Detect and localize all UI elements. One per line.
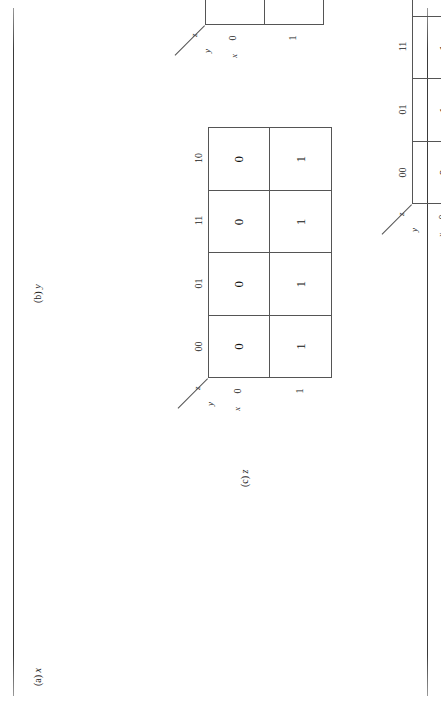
kmap-column-header: 00 [190, 0, 201, 25]
kmap-cell: 0 [265, 0, 324, 24]
kmap-column-header: 11 [397, 15, 408, 78]
kmap-caption-c: (c) z [239, 469, 250, 487]
kmap-axis-diagonal [382, 204, 412, 234]
kmap-caption-c-prefix: (c) [239, 476, 250, 487]
kmap-axis-label-y: y [409, 228, 419, 232]
kmap-axis-label-z: z [192, 386, 202, 390]
kmap-axis-label-y: y [202, 49, 212, 53]
kmap-column-header: 00 [193, 315, 204, 378]
kmap-grid-c: 0 1 1 0 0 1 1 0 [412, 0, 441, 204]
kmap-column-header: 01 [193, 252, 204, 315]
kmap-cell: 0 [413, 0, 441, 16]
kmap-column-header: 10 [193, 127, 204, 189]
kmap-cell: 0 [209, 253, 270, 315]
kmap-cell: 1 [270, 315, 331, 377]
kmap-axis-label-z: z [189, 33, 199, 37]
kmap-cell: 0 [209, 190, 270, 252]
kmap-caption-a-var: x [32, 668, 43, 672]
kmap-caption-b: (b) y [32, 284, 43, 303]
kmap-cell: 1 [270, 190, 331, 252]
page-rule-left [13, 8, 14, 696]
kmap-grid-b: 0 0 1 1 0 0 1 1 [205, 0, 324, 25]
kmap-row-header: 0 [232, 382, 243, 400]
kmap-column-header: 01 [397, 78, 408, 141]
kmap-axis-diagonal [178, 378, 208, 408]
kmap-column-header: 00 [397, 141, 408, 204]
kmap-caption-b-prefix: (b) [32, 291, 43, 303]
kmap-caption-a-prefix: (a) [32, 675, 43, 686]
kmap-cell: 1 [270, 128, 331, 190]
kmap-cell: 1 [270, 253, 331, 315]
kmap-caption-b-var: y [32, 284, 43, 288]
kmap-cell: 0 [206, 0, 265, 24]
kmap-cell: 0 [413, 141, 441, 203]
kmap-cell: 0 [209, 128, 270, 190]
kmap-axis-label-x: x [436, 233, 441, 237]
kmap-caption-a: (a) x [32, 668, 43, 686]
kmap-cell: 0 [209, 315, 270, 377]
kmap-row-header: 0 [227, 29, 238, 47]
kmap-column-header: 11 [193, 189, 204, 252]
kmap-column-header: 10 [397, 0, 408, 15]
kmap-axis-diagonal [175, 25, 205, 55]
kmap-cell: 1 [413, 79, 441, 141]
kmap-row-header: 1 [294, 382, 305, 400]
kmap-cell: 1 [413, 16, 441, 78]
kmap-axis-label-y: y [205, 402, 215, 406]
kmap-row-header: 0 [437, 208, 441, 226]
kmap-grid-a: 0 0 0 0 1 1 1 1 [208, 127, 332, 378]
kmap-axis-label-x: x [229, 54, 239, 58]
kmap-caption-c-var: z [239, 469, 250, 473]
kmap-row-header: 1 [287, 29, 298, 47]
kmap-axis-label-x: x [232, 407, 242, 411]
kmap-axis-label-z: z [396, 212, 406, 216]
